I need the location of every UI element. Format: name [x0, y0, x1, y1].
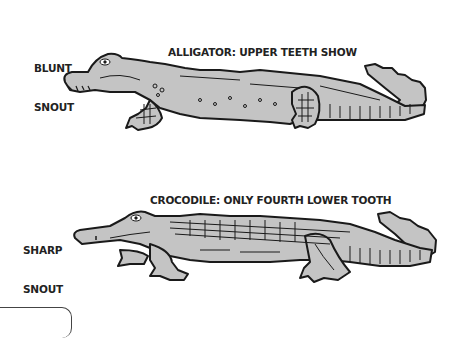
- crocodile-illustration: [74, 212, 436, 282]
- alligator-illustration: [64, 54, 426, 130]
- partial-frame-border: [0, 307, 72, 338]
